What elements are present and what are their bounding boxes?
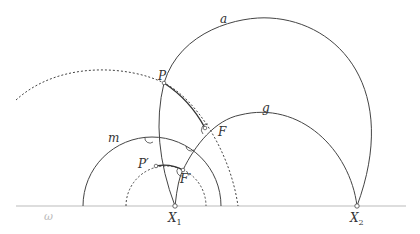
dashed-inner-circle xyxy=(126,166,206,206)
label-Fprime: F′ xyxy=(179,172,191,186)
point-X2 xyxy=(355,204,359,208)
label-F: F xyxy=(217,125,227,139)
label-X2: X2 xyxy=(349,211,364,227)
label-a: a xyxy=(220,12,227,26)
label-m: m xyxy=(108,131,119,145)
point-X1 xyxy=(173,204,177,208)
label-P: P xyxy=(157,69,167,83)
label-omega: ω xyxy=(44,210,53,223)
geometry-diagram: a g m ω P F P′ F′ X1 X2 xyxy=(0,0,420,234)
dashed-large-arc xyxy=(16,70,238,206)
circle-m xyxy=(83,137,221,206)
point-F xyxy=(203,126,207,130)
angle-mark-m-left xyxy=(145,137,153,143)
label-X1: X1 xyxy=(167,211,182,227)
label-g: g xyxy=(262,101,270,115)
point-Pprime xyxy=(154,164,158,168)
label-Pprime: P′ xyxy=(137,157,149,171)
arc-PF xyxy=(164,83,205,128)
arc-PprimeFprime xyxy=(156,165,183,170)
